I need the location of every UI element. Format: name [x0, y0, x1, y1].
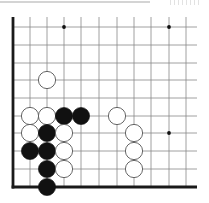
white-stone[interactable]	[21, 107, 38, 124]
black-stone[interactable]	[72, 107, 89, 124]
grid-lines	[13, 17, 197, 187]
black-stone[interactable]	[38, 142, 55, 159]
black-stone[interactable]	[38, 124, 55, 141]
white-stone[interactable]	[55, 124, 72, 141]
white-stone[interactable]	[21, 124, 38, 141]
black-stone[interactable]	[38, 178, 55, 195]
black-stone[interactable]	[21, 142, 38, 159]
stones	[21, 71, 142, 195]
white-stone[interactable]	[125, 160, 142, 177]
star-point-icon	[62, 25, 66, 29]
white-stone[interactable]	[108, 107, 125, 124]
white-stone[interactable]	[125, 142, 142, 159]
black-stone[interactable]	[38, 160, 55, 177]
white-stone[interactable]	[125, 124, 142, 141]
white-stone[interactable]	[38, 107, 55, 124]
white-stone[interactable]	[55, 142, 72, 159]
black-stone[interactable]	[55, 107, 72, 124]
star-point-icon	[167, 25, 171, 29]
white-stone[interactable]	[38, 71, 55, 88]
star-point-icon	[167, 131, 171, 135]
go-board[interactable]	[0, 0, 209, 203]
white-stone[interactable]	[55, 160, 72, 177]
